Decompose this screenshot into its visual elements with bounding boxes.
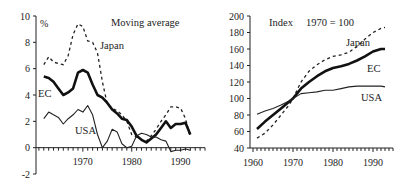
y-tick-label: 200	[229, 11, 244, 22]
left-label-usa: USA	[75, 125, 96, 136]
charts-canvas: -20246810197019801990 % Moving average J…	[0, 0, 420, 184]
left-chart-moving-average: -20246810197019801990 % Moving average J…	[20, 11, 205, 180]
x-tick-label: 1970	[283, 157, 303, 168]
left-y-unit: %	[40, 18, 48, 29]
x-tick-label: 1990	[363, 157, 383, 168]
x-tick-label: 1960	[243, 157, 263, 168]
left-label-ec: EC	[38, 88, 51, 99]
right-chart-title-base: 1970 = 100	[306, 17, 354, 28]
y-tick-label: 100	[229, 93, 244, 104]
right-axes: 4060801001201401601802001960197019801990	[229, 11, 393, 169]
x-tick-label: 1980	[323, 157, 343, 168]
y-tick-label: 60	[234, 126, 244, 137]
y-tick-label: 120	[229, 77, 244, 88]
y-tick-label: 40	[234, 143, 244, 154]
right-label-japan: Japan	[346, 37, 371, 48]
y-tick-label: 8	[25, 37, 30, 48]
right-chart-title-index: Index	[269, 17, 294, 28]
y-tick-label: 10	[20, 11, 30, 22]
left-label-japan: Japan	[100, 40, 125, 51]
x-tick-label: 1970	[73, 156, 93, 167]
y-tick-label: 160	[229, 44, 244, 55]
right-label-usa: USA	[361, 92, 382, 103]
y-tick-label: 140	[229, 60, 244, 71]
left-chart-title: Moving average	[111, 17, 180, 28]
right-label-ec: EC	[367, 63, 380, 74]
x-tick-label: 1990	[171, 156, 191, 167]
right-chart-index: 4060801001201401601802001960197019801990…	[229, 11, 393, 169]
y-tick-label: 6	[25, 63, 30, 74]
y-tick-label: 2	[25, 116, 30, 127]
y-tick-label: 180	[229, 27, 244, 38]
y-tick-label: 0	[25, 142, 30, 153]
y-tick-label: 4	[25, 90, 30, 101]
x-tick-label: 1980	[122, 156, 142, 167]
y-tick-label: -2	[22, 169, 30, 180]
y-tick-label: 80	[234, 110, 244, 121]
series-line-ec	[257, 49, 385, 129]
